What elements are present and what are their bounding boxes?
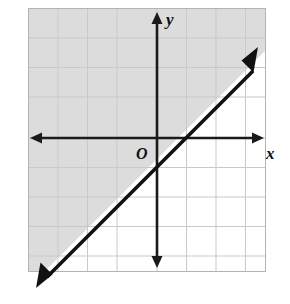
origin-label: O — [136, 145, 148, 162]
y-axis-label: y — [164, 10, 174, 29]
x-axis-label: x — [265, 144, 275, 163]
graph-figure: y x O — [0, 0, 290, 304]
coordinate-plane-svg: y x O — [0, 0, 290, 304]
